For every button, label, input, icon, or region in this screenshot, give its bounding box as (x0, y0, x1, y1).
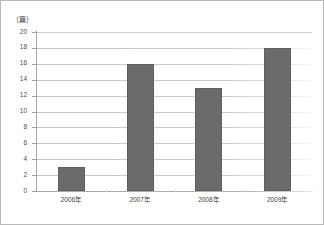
x-tick-label: 2006年 (41, 197, 101, 204)
bar (127, 64, 154, 191)
x-tick-label: 2008年 (179, 197, 239, 204)
y-tick-mark (32, 191, 37, 192)
plot-area (37, 32, 312, 191)
axis-scan-mark (106, 190, 107, 192)
y-axis-unit-label: （篇） (12, 14, 32, 24)
y-tick-label: 6 (7, 140, 27, 147)
gridline (37, 32, 312, 33)
bar (264, 48, 291, 191)
axis-scan-mark (175, 190, 176, 192)
x-tick-label: 2007年 (110, 197, 170, 204)
y-tick-label: 12 (7, 92, 27, 99)
bar-chart-figure: （篇） 20181614121086420 2006年2007年2008年200… (0, 0, 324, 225)
y-tick-label: 4 (7, 156, 27, 163)
bar (195, 88, 222, 191)
y-tick-label: 16 (7, 60, 27, 67)
y-tick-label: 10 (7, 108, 27, 115)
bar (58, 167, 85, 191)
y-tick-label: 20 (7, 29, 27, 36)
y-tick-label: 14 (7, 76, 27, 83)
y-tick-label: 0 (7, 188, 27, 195)
y-tick-label: 18 (7, 44, 27, 51)
x-tick-label: 2009年 (248, 197, 308, 204)
y-tick-label: 8 (7, 124, 27, 131)
axis-scan-mark (243, 190, 244, 192)
y-tick-label: 2 (7, 172, 27, 179)
